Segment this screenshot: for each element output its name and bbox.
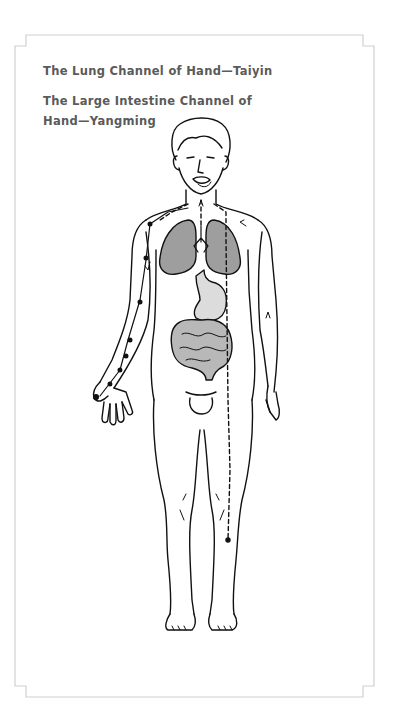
genitals <box>186 392 216 414</box>
intestines <box>171 320 232 381</box>
head <box>172 118 230 194</box>
lungs <box>160 220 241 274</box>
feet <box>166 614 237 630</box>
hand-right <box>266 386 279 420</box>
body-figure <box>0 0 393 720</box>
hand-left <box>93 382 132 425</box>
legs <box>153 400 252 614</box>
stomach <box>194 270 226 321</box>
